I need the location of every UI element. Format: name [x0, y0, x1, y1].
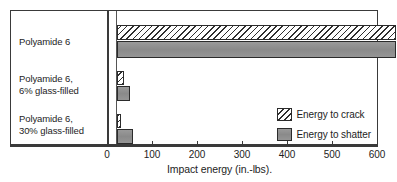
x-tick-100 — [152, 141, 153, 146]
x-axis: 0 100 200 300 400 500 600 — [10, 145, 378, 147]
x-axis-title: Impact energy (in.-lbs). — [0, 163, 393, 175]
x-tick-label-100: 100 — [144, 149, 161, 160]
bar-shatter-polyamide-6-6pct — [117, 86, 130, 101]
legend-item-energy-to-shatter: Energy to shatter — [277, 126, 397, 143]
hatch-swatch-icon — [277, 108, 292, 121]
x-tick-600 — [377, 141, 378, 146]
bar-crack-polyamide-6-6pct — [117, 71, 124, 85]
legend-label: Energy to shatter — [297, 129, 371, 140]
x-axis-title-text: Impact energy (in.-lbs). — [167, 163, 272, 175]
bar-crack-polyamide-6 — [117, 25, 396, 40]
bar-shatter-polyamide-6 — [117, 41, 396, 58]
category-label-column: Polyamide 6 Polyamide 6, 6% glass-filled… — [11, 11, 107, 144]
gray-swatch-icon — [277, 128, 292, 141]
category-label-line1: Polyamide 6, — [19, 113, 73, 124]
category-label-polyamide-6-6pct: Polyamide 6, 6% glass-filled — [19, 73, 107, 96]
category-label-polyamide-6: Polyamide 6 — [19, 36, 107, 48]
category-label-line1: Polyamide 6 — [19, 36, 70, 47]
plot-area: Energy to crack Energy to shatter — [109, 11, 378, 144]
category-label-line2: 30% glass-filled — [19, 125, 107, 137]
plot-frame: Polyamide 6 Polyamide 6, 6% glass-filled… — [10, 10, 378, 145]
caption-remnant — [0, 175, 393, 182]
category-label-line1: Polyamide 6, — [19, 73, 73, 84]
x-tick-200 — [197, 141, 198, 146]
x-tick-label-500: 500 — [324, 149, 341, 160]
category-label-line2: 6% glass-filled — [19, 85, 107, 97]
bar-crack-polyamide-6-30pct — [117, 114, 121, 128]
x-tick-label-400: 400 — [279, 149, 296, 160]
category-label-polyamide-6-30pct: Polyamide 6, 30% glass-filled — [19, 113, 107, 136]
x-tick-400 — [287, 141, 288, 146]
x-tick-label-200: 200 — [189, 149, 206, 160]
x-axis-line — [10, 145, 378, 147]
bar-shatter-polyamide-6-30pct — [117, 129, 133, 144]
x-tick-500 — [332, 141, 333, 146]
x-tick-label-600: 600 — [369, 149, 386, 160]
legend-label: Energy to crack — [297, 109, 365, 120]
x-tick-0 — [107, 141, 108, 146]
legend-item-energy-to-crack: Energy to crack — [277, 106, 397, 123]
legend: Energy to crack Energy to shatter — [277, 106, 397, 146]
x-tick-label-0: 0 — [104, 149, 110, 160]
x-tick-label-300: 300 — [234, 149, 251, 160]
x-tick-300 — [242, 141, 243, 146]
